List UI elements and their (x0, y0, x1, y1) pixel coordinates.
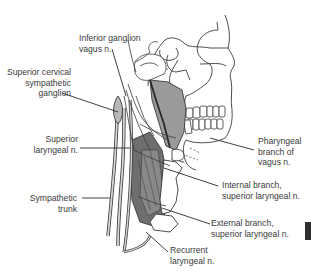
label-superior-laryngeal-nerve: Superior laryngeal n. (34, 134, 78, 155)
teeth (183, 106, 225, 134)
superior-cervical-ganglion (114, 96, 123, 124)
label-sympathetic-trunk: Sympathetic trunk (30, 193, 77, 214)
page-edge-tab (305, 222, 311, 240)
label-inferior-ganglion-vagus: Inferior ganglion vagus n. (79, 33, 141, 54)
ear-region (134, 54, 166, 80)
label-recurrent-laryngeal-nerve: Recurrent laryngeal n. (170, 245, 214, 266)
label-pharyngeal-branch-vagus: Pharyngeal branch of vagus n. (258, 136, 301, 168)
label-superior-cervical-ganglion: Superior cervical sympathetic ganglion (7, 67, 71, 99)
label-internal-branch-superior-laryngeal: Internal branch, superior laryngeal n. (222, 180, 300, 201)
anatomy-diagram: Inferior ganglion vagus n. Superior cerv… (0, 0, 311, 274)
leader-pharyngeal-branch (210, 138, 254, 150)
leader-inferior-ganglion (112, 49, 126, 96)
label-external-branch-superior-laryngeal: External branch, superior laryngeal n. (211, 218, 289, 239)
leader-recurrent-laryngeal (146, 232, 168, 252)
